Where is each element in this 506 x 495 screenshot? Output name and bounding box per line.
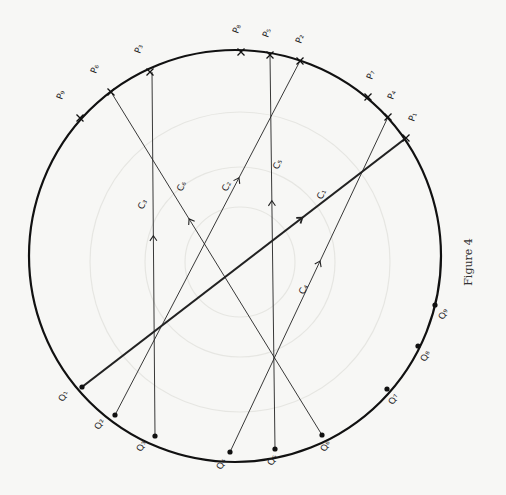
point-q9: Q₉: [432, 302, 449, 320]
dot-marker-icon: [79, 384, 84, 389]
point-q4: Q₄: [214, 449, 232, 470]
point-label: P₂: [293, 32, 306, 44]
dot-marker-icon: [152, 433, 157, 438]
dot-marker-icon: [112, 412, 117, 417]
chord-label: C₂: [220, 179, 233, 193]
chord-c1: C₁: [82, 138, 406, 387]
dot-marker-icon: [415, 343, 420, 348]
chord-label: C₄: [297, 282, 310, 296]
point-label: P₆: [88, 62, 101, 74]
point-label: P₅: [260, 26, 273, 38]
point-label: Q₈: [418, 349, 431, 363]
chord-c3: C₃: [136, 72, 157, 436]
point-q6: Q₆: [318, 432, 331, 452]
point-p9: P₉: [54, 88, 83, 121]
point-label: P₈: [230, 22, 243, 34]
dot-marker-icon: [319, 432, 324, 437]
dot-marker-icon: [384, 386, 389, 391]
point-label: Q₄: [214, 457, 227, 471]
chords-group: C₁C₂C₃C₄C₅C₆: [82, 55, 406, 452]
chord-c4: C₄: [230, 117, 388, 452]
chord-line: [152, 72, 155, 436]
faint-background-circles: [90, 112, 390, 412]
point-label: P₃: [132, 42, 145, 54]
q-points-group: Q₁Q₂Q₃Q₄Q₅Q₆Q₇Q₈Q₉: [56, 302, 449, 470]
point-p4: P₄: [385, 88, 399, 120]
point-label: Q₅: [265, 453, 278, 467]
point-p5: P₅: [260, 26, 273, 58]
point-label: P₉: [54, 88, 67, 100]
faint-circle: [145, 167, 335, 357]
dot-marker-icon: [272, 446, 277, 451]
faint-circle: [185, 207, 295, 317]
dot-marker-icon: [432, 302, 437, 307]
point-label: Q₆: [318, 439, 331, 453]
chord-line: [230, 117, 388, 452]
chord-c6: C₆: [111, 92, 322, 435]
p-points-group: P₉P₆P₃P₈P₅P₂P₇P₄P₁: [54, 22, 419, 141]
point-p1: P₁: [403, 110, 420, 141]
chord-line: [111, 92, 322, 435]
figure-caption: Figure 4: [462, 238, 475, 286]
diagram-canvas: C₁C₂C₃C₄C₅C₆ P₉P₆P₃P₈P₅P₂P₇P₄P₁ Q₁Q₂Q₃Q₄…: [0, 0, 506, 495]
point-label: Q₂: [92, 417, 105, 431]
point-p7: P₇: [364, 68, 377, 100]
chord-line: [82, 138, 406, 387]
chord-label: C₅: [271, 157, 284, 171]
point-label: P₁: [406, 110, 419, 122]
figure-4-diagram: C₁C₂C₃C₄C₅C₆ P₉P₆P₃P₈P₅P₂P₇P₄P₁ Q₁Q₂Q₃Q₄…: [0, 0, 506, 495]
point-q3: Q₃: [134, 433, 157, 452]
chord-label: C₃: [136, 197, 149, 211]
point-label: Q₉: [436, 307, 449, 321]
faint-circle: [90, 112, 390, 412]
point-q5: Q₅: [265, 446, 278, 466]
point-label: P₇: [364, 68, 377, 80]
point-label: P₄: [385, 88, 398, 100]
point-label: Q₁: [56, 389, 69, 403]
chord-c5: C₅: [268, 55, 284, 449]
dot-marker-icon: [227, 449, 232, 454]
